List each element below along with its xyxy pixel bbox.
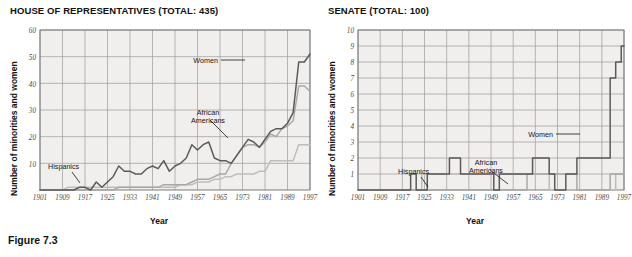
svg-text:1901: 1901 [351,194,365,202]
svg-text:1957: 1957 [506,194,521,202]
svg-text:1941: 1941 [462,194,476,202]
x-axis-label-house: Year [0,216,318,226]
chart-panel-senate: SENATE (TOTAL: 100) Number of minorities… [318,0,632,232]
svg-text:Hispanics: Hispanics [48,162,80,171]
svg-text:1989: 1989 [595,194,610,202]
svg-text:1933: 1933 [439,194,454,202]
panel-title-house: HOUSE OF REPRESENTATIVES (TOTAL: 435) [10,5,218,16]
svg-text:1933: 1933 [123,194,138,202]
plot-area-senate: 1234567891019011909191719251933194119491… [318,22,632,212]
svg-text:1989: 1989 [280,194,295,202]
svg-text:1901: 1901 [33,194,47,202]
svg-text:5: 5 [350,107,354,115]
svg-text:3: 3 [349,139,354,147]
svg-text:Women: Women [528,130,553,139]
svg-text:Hispanics: Hispanics [398,167,430,176]
figure-7-3: HOUSE OF REPRESENTATIVES (TOTAL: 435) Nu… [0,0,632,257]
chart-panel-house: HOUSE OF REPRESENTATIVES (TOTAL: 435) Nu… [0,0,318,232]
panel-title-senate: SENATE (TOTAL: 100) [328,5,429,16]
svg-text:30: 30 [28,107,37,115]
svg-text:1957: 1957 [190,194,205,202]
svg-text:10: 10 [347,27,355,35]
svg-text:1925: 1925 [100,194,115,202]
svg-text:60: 60 [29,27,37,35]
svg-text:1: 1 [350,171,354,179]
svg-text:20: 20 [29,134,37,142]
svg-text:4: 4 [350,123,354,131]
svg-text:10: 10 [29,161,37,169]
svg-text:2: 2 [350,155,354,163]
svg-text:1949: 1949 [168,194,183,202]
house-chart-svg: 1020304050601901190919171925193319411949… [0,22,318,212]
svg-text:Americans: Americans [469,166,503,175]
svg-text:6: 6 [350,91,354,99]
svg-text:1965: 1965 [213,194,228,202]
senate-chart-svg: 1234567891019011909191719251933194119491… [318,22,632,212]
svg-text:40: 40 [29,81,37,89]
figure-caption: Figure 7.3 [8,234,58,246]
svg-text:1997: 1997 [617,194,632,202]
svg-text:1981: 1981 [258,194,272,202]
svg-text:Women: Women [193,56,218,65]
svg-text:1973: 1973 [235,194,250,202]
svg-text:1973: 1973 [550,194,565,202]
plot-area-house: 1020304050601901190919171925193319411949… [0,22,318,212]
svg-text:1981: 1981 [572,194,586,202]
svg-text:1941: 1941 [145,194,159,202]
svg-text:1965: 1965 [528,194,543,202]
svg-text:1949: 1949 [484,194,499,202]
svg-text:1917: 1917 [78,194,93,202]
svg-text:Americans: Americans [191,116,225,125]
x-axis-label-senate: Year [318,216,632,226]
svg-text:50: 50 [29,54,37,62]
svg-text:1925: 1925 [417,194,432,202]
svg-text:1909: 1909 [55,194,70,202]
svg-text:7: 7 [350,75,354,83]
svg-text:1917: 1917 [395,194,410,202]
svg-text:8: 8 [350,59,354,67]
svg-text:9: 9 [350,43,354,51]
svg-text:1997: 1997 [303,194,318,202]
svg-text:1909: 1909 [373,194,388,202]
